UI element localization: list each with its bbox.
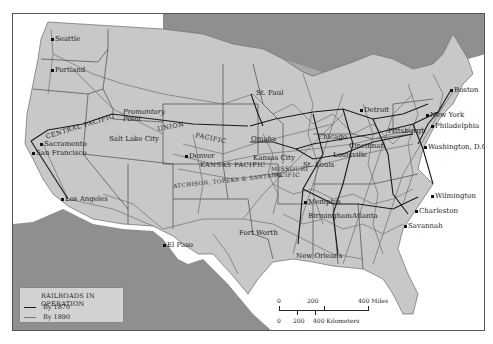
scale-bar: 0 200 400 Miles 0 200 400 Kilometers xyxy=(276,297,406,327)
city-marker-icon xyxy=(185,155,188,158)
scale-label: 400 Kilometers xyxy=(313,317,359,324)
city-marker-icon xyxy=(431,125,434,128)
city-detroit: Detroit xyxy=(360,107,389,114)
city-marker-icon xyxy=(40,143,43,146)
city-omaha: Omaha xyxy=(251,136,276,143)
line-swatch-icon xyxy=(24,307,36,308)
city-birmingham: Birmingham xyxy=(308,213,352,220)
city-seattle: Seattle xyxy=(51,36,80,43)
city-memphis: Memphis xyxy=(304,199,341,206)
city-marker-icon xyxy=(426,114,429,117)
scale-tick xyxy=(279,306,280,311)
scale-tick xyxy=(368,306,369,311)
city-marker-icon xyxy=(61,198,64,201)
city-fort-worth: Fort Worth xyxy=(239,230,278,237)
legend-item-1870: By 1870 xyxy=(24,303,70,311)
city-wilmington: Wilmington xyxy=(431,193,476,200)
city-boston: Boston xyxy=(450,87,479,94)
scale-label: 200 xyxy=(307,297,318,304)
scale-label: 400 Miles xyxy=(358,297,388,304)
city-new-york: New York xyxy=(426,112,464,119)
city-marker-icon xyxy=(360,109,363,112)
scale-label: 0 xyxy=(277,317,281,324)
city-marker-icon xyxy=(51,69,54,72)
scale-tick xyxy=(297,310,298,315)
city-philadelphia: Philadelphia xyxy=(431,123,479,130)
scale-tick xyxy=(315,310,316,315)
legend-item-1890: By 1890 xyxy=(24,313,70,321)
map-frame: Seattle Portland Sacramento San Francisc… xyxy=(12,13,485,331)
line-swatch-icon xyxy=(24,317,36,318)
scale-label: 200 xyxy=(293,317,304,324)
city-los-angeles: Los Angeles xyxy=(61,196,108,203)
city-salt-lake-city: Salt Lake City xyxy=(109,136,159,143)
city-cincinnati: Cincinnati xyxy=(349,143,386,150)
city-sacramento: Sacramento xyxy=(40,141,87,148)
city-marker-icon xyxy=(163,244,166,247)
city-marker-icon xyxy=(304,201,307,204)
city-louisville: Louisville xyxy=(333,152,367,159)
city-marker-icon xyxy=(415,210,418,213)
railroad-label-kansas-pacific: KANSAS PACIFIC xyxy=(200,162,266,169)
city-denver: Denver xyxy=(185,153,215,160)
city-new-orleans: New Orleans xyxy=(296,253,342,260)
city-el-paso: El Paso xyxy=(163,242,193,249)
railroad-label-missouri-pacific: MISSOURI PACIFIC xyxy=(271,166,303,178)
city-atlanta: Atlanta xyxy=(352,213,378,220)
city-washington-dc: Washington, D.C. xyxy=(424,144,485,151)
map-legend: RAILROADS IN OPERATION By 1870 By 1890 xyxy=(19,287,124,323)
scale-label: 0 xyxy=(277,297,281,304)
city-marker-icon xyxy=(431,195,434,198)
city-marker-icon xyxy=(424,146,427,149)
city-marker-icon xyxy=(32,152,35,155)
city-charleston: Charleston xyxy=(415,208,458,215)
city-chicago: Chicago xyxy=(318,134,347,141)
city-promontory-point: Promontory Point xyxy=(123,109,163,123)
city-portland: Portland xyxy=(51,67,85,74)
us-railroad-map-svg xyxy=(13,14,485,331)
city-savannah: Savannah xyxy=(404,223,443,230)
scale-tick xyxy=(324,306,325,311)
city-san-francisco: San Francisco xyxy=(32,150,86,157)
city-marker-icon xyxy=(404,225,407,228)
city-marker-icon xyxy=(450,89,453,92)
city-st-paul: St. Paul xyxy=(256,90,283,97)
city-marker-icon xyxy=(51,38,54,41)
city-pittsburgh: Pittsburgh xyxy=(388,128,426,135)
